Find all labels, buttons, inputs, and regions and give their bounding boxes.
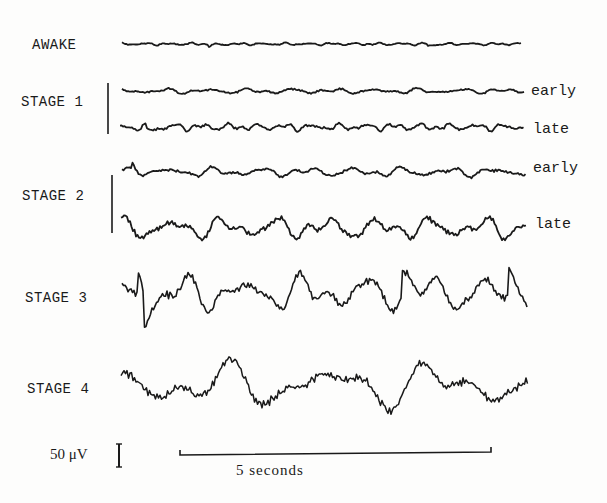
eeg-trace-stage-1-early <box>122 88 524 94</box>
time-scale-bar <box>180 447 491 455</box>
eeg-trace-stage-2-early <box>122 163 526 179</box>
eeg-trace-stage-2-late <box>121 215 526 240</box>
eeg-trace-stage-4 <box>121 357 528 414</box>
voltage-scale-label: 50 μV <box>50 446 88 463</box>
eeg-figure <box>0 0 607 503</box>
eeg-trace-stage-1-late <box>120 123 524 132</box>
voltage-scale-bar <box>116 444 122 467</box>
time-scale-label: 5 seconds <box>236 462 304 479</box>
eeg-trace-stage-3 <box>122 268 527 328</box>
eeg-trace-awake <box>122 42 521 47</box>
